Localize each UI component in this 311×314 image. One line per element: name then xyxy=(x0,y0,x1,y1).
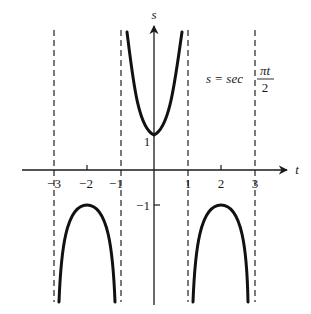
x-tick-label: −2 xyxy=(79,176,93,191)
x-tick-label: 2 xyxy=(218,176,225,191)
equation-label: s = sec πt 2 xyxy=(206,63,274,95)
y-tick-label: 1 xyxy=(144,134,151,149)
x-tick-label: −3 xyxy=(47,176,61,191)
y-tick-label: −1 xyxy=(136,198,150,213)
x-axis-label: t xyxy=(295,162,299,177)
x-tick-label: 1 xyxy=(185,176,192,191)
curve-branch-left xyxy=(59,205,115,302)
svg-text:s = sec: s = sec xyxy=(206,71,243,86)
x-tick-label: −1 xyxy=(109,176,123,191)
secant-graph: −3 −2 −1 1 2 3 1 −1 t s s = sec πt 2 xyxy=(0,0,311,314)
curve-branch-right xyxy=(193,205,248,302)
x-tick-label: 3 xyxy=(252,176,259,191)
svg-text:πt: πt xyxy=(260,63,271,78)
svg-text:2: 2 xyxy=(262,80,269,95)
y-axis-label: s xyxy=(151,7,156,22)
